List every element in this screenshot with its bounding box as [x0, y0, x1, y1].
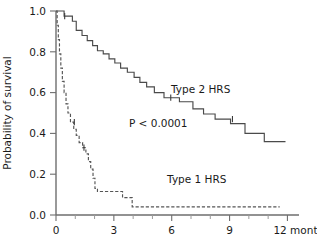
y-axis-ticks	[50, 11, 56, 215]
y-tick-label: 0.0	[29, 209, 46, 221]
annotation-type1-label: Type 1 HRS	[166, 173, 227, 185]
figure-caption-strip	[0, 241, 317, 249]
x-tick-label: 6	[168, 224, 175, 236]
y-tick-label: 0.2	[29, 168, 46, 180]
x-tick-label: 0	[53, 224, 60, 236]
y-axis-tick-labels: 0.00.20.40.60.81.0	[29, 5, 46, 221]
y-tick-label: 1.0	[29, 5, 46, 17]
x-axis-ticks	[56, 215, 287, 221]
y-tick-label: 0.8	[29, 46, 46, 58]
x-tick-label: 9	[226, 224, 233, 236]
survival-chart: 0.00.20.40.60.81.0 036912 months Probabi…	[0, 0, 317, 249]
x-axis-tick-labels: 036912 months	[53, 224, 317, 236]
x-tick-label: 3	[111, 224, 118, 236]
y-tick-label: 0.6	[29, 86, 46, 98]
annotation-p-value: P < 0.0001	[129, 117, 188, 129]
y-axis-title: Probability of survival	[1, 56, 13, 169]
annotation-type2-label: Type 2 HRS	[170, 83, 231, 95]
y-tick-label: 0.4	[29, 127, 46, 139]
km-survival-figure: 0.00.20.40.60.81.0 036912 months Probabi…	[0, 0, 317, 249]
x-tick-label: 12 months	[273, 224, 317, 236]
